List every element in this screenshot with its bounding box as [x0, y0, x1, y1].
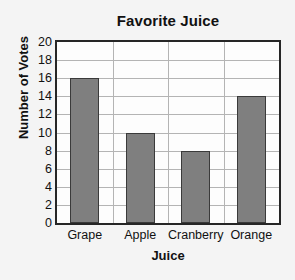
plot-area [55, 40, 281, 225]
x-axis-tick-label: Apple [113, 227, 169, 243]
x-axis-tick-label: Cranberry [168, 227, 224, 243]
x-axis-tick-labels: GrapeAppleCranberryOrange [55, 227, 281, 245]
plot-inner [57, 42, 279, 223]
y-axis-tick-label: 16 [26, 72, 52, 84]
y-axis-tick-labels: 02468101214161820 [26, 40, 52, 225]
y-axis-tick-label: 0 [26, 217, 52, 229]
x-axis-title: Juice [55, 248, 281, 263]
y-axis-tick-label: 2 [26, 199, 52, 211]
chart-title: Favorite Juice [55, 12, 281, 30]
y-axis-tick-label: 18 [26, 54, 52, 66]
gridline-vertical [224, 42, 225, 223]
gridline-vertical [113, 42, 114, 223]
bar-chart-figure: Favorite Juice Number of Votes 024681012… [0, 0, 295, 280]
gridline-vertical [168, 42, 169, 223]
y-axis-tick-label: 6 [26, 163, 52, 175]
x-axis-tick-label: Orange [224, 227, 280, 243]
y-axis-tick-label: 12 [26, 108, 52, 120]
x-axis-tick-label: Grape [57, 227, 113, 243]
y-axis-tick-label: 20 [26, 36, 52, 48]
bar-cranberry[interactable] [181, 151, 210, 223]
bar-grape[interactable] [70, 78, 99, 223]
bar-orange[interactable] [237, 96, 266, 223]
bar-apple[interactable] [126, 133, 155, 224]
y-axis-tick-label: 4 [26, 181, 52, 193]
y-axis-tick-label: 8 [26, 145, 52, 157]
y-axis-tick-label: 14 [26, 90, 52, 102]
y-axis-tick-label: 10 [26, 127, 52, 139]
